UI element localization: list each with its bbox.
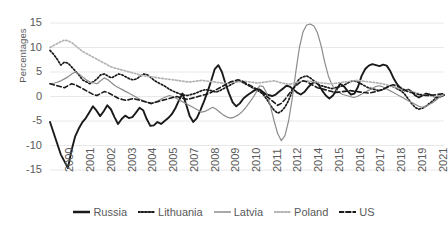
legend-label: Poland: [294, 206, 328, 218]
legend-item-lithuania[interactable]: Lithuania: [138, 206, 203, 218]
y-tick-label: -10: [14, 140, 42, 151]
y-tick-label: -15: [14, 164, 42, 175]
y-tick-label: 5: [14, 66, 42, 77]
plot-area: [0, 0, 448, 236]
legend-label: Lithuania: [158, 206, 203, 218]
legend-swatch-icon: [339, 208, 356, 216]
inflation-line-chart: Percentages 151050-5-10-15 2000200120022…: [0, 0, 448, 236]
x-tick-label: 2018: [396, 148, 407, 172]
chart-legend: RussiaLithuaniaLatviaPolandUS: [0, 206, 448, 218]
legend-label: Russia: [93, 206, 127, 218]
x-tick-label: 2004: [147, 148, 158, 172]
x-tick-label: 2008: [210, 148, 221, 172]
legend-swatch-icon: [274, 208, 291, 216]
x-tick-label: 2005: [168, 148, 179, 172]
x-tick-label: 2021: [438, 148, 448, 172]
legend-label: US: [359, 206, 374, 218]
x-tick-label: 2015: [334, 148, 345, 172]
legend-swatch-icon: [73, 208, 90, 216]
x-tick-label: 2012: [292, 148, 303, 172]
legend-item-poland[interactable]: Poland: [274, 206, 328, 218]
x-tick-label: 2019: [417, 148, 428, 172]
legend-label: Latvia: [234, 206, 263, 218]
y-tick-label: -5: [14, 115, 42, 126]
legend-item-russia[interactable]: Russia: [73, 206, 127, 218]
x-tick-label: 2010: [251, 148, 262, 172]
x-tick-label: 2002: [106, 148, 117, 172]
x-tick-label: 2007: [189, 148, 200, 172]
y-tick-label: 15: [14, 17, 42, 28]
x-tick-label: 2001: [85, 148, 96, 172]
y-tick-label: 0: [14, 91, 42, 102]
x-tick-label: 2003: [127, 148, 138, 172]
legend-item-latvia[interactable]: Latvia: [214, 206, 263, 218]
legend-item-us[interactable]: US: [339, 206, 374, 218]
y-tick-label: 10: [14, 42, 42, 53]
x-tick-label: 2016: [355, 148, 366, 172]
legend-swatch-icon: [214, 208, 231, 216]
x-tick-label: 2017: [375, 148, 386, 172]
legend-swatch-icon: [138, 208, 155, 216]
x-tick-label: 2009: [230, 148, 241, 172]
x-tick-label: 2014: [313, 148, 324, 172]
x-tick-label: 2011: [272, 148, 283, 172]
x-tick-label: 2000: [64, 148, 75, 172]
